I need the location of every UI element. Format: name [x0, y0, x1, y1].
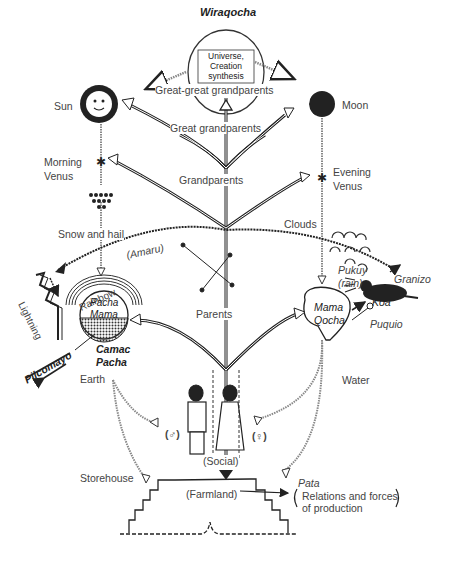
label-moon: Moon [342, 99, 368, 111]
arrow-to-morning-venus [108, 154, 118, 165]
evening-venus-star-icon: ✱ [317, 171, 327, 185]
label-morning-venus-1: Morning [44, 156, 82, 168]
label-koa: Koa [372, 296, 391, 308]
label-storehouse: Storehouse [80, 472, 134, 484]
couple-figures-icon [188, 385, 244, 454]
label-granizo: Granizo [394, 273, 431, 285]
label-female-symbol: (♀) [252, 430, 267, 442]
label-relations-2: of production [302, 502, 363, 514]
arrow-to-evening-venus [300, 172, 310, 182]
arrow-head-right [318, 276, 326, 284]
label-relations-1: Relations and forces [302, 490, 398, 502]
label-parents: Parents [196, 308, 232, 320]
arrow-to-farmland [219, 470, 233, 480]
up-arrow-icon [220, 100, 232, 110]
label-pukuy-1: Pukuy [338, 264, 367, 276]
label-camac-pacha-1: Camac [96, 343, 130, 355]
arrow-wiraqocha-to-moon [255, 62, 292, 78]
label-snow-hail: Snow and hail [58, 228, 124, 240]
label-sun: Sun [54, 100, 73, 112]
label-pukuy-2: (rain) [338, 277, 363, 289]
label-pata: Pata [298, 477, 320, 489]
label-great-great-grandparents: Great-great grandparents [155, 84, 273, 96]
label-male-symbol: (♂) [165, 428, 180, 440]
universe-box-line-3: synthesis [201, 72, 251, 82]
arrow-to-relations [240, 491, 288, 493]
wiraqocha-title: Wiraqocha [200, 6, 256, 19]
label-camac-pacha-2: Pacha [96, 356, 127, 368]
label-evening-venus-2: Venus [333, 180, 362, 192]
arrow-to-sun [122, 98, 134, 110]
amaru-arrow-head [55, 262, 66, 274]
moon-icon [306, 91, 335, 117]
label-morning-venus-2: Venus [44, 170, 73, 182]
label-grandparents: Grandparents [179, 174, 243, 186]
label-evening-venus-1: Evening [333, 166, 371, 178]
label-social: (Social) [203, 455, 239, 467]
label-pacha-mama-2: Mama [90, 309, 118, 321]
label-farmland: (Farmland) [186, 488, 237, 500]
sun-icon [80, 85, 118, 123]
label-mama-qocha-2: Qocha [314, 314, 345, 326]
label-earth: Earth [80, 373, 105, 385]
label-pacha-mama-1: Pacha [90, 297, 118, 309]
label-water: Water [342, 374, 370, 386]
arrow-to-pacha-mama [130, 314, 141, 325]
branches-great-grandparents [130, 105, 285, 168]
label-mama-qocha-1: Mama [314, 301, 343, 313]
snow-hail-icon [89, 193, 113, 209]
label-great-grandparents: Great grandparents [170, 122, 261, 134]
arrow-to-koa [352, 302, 365, 310]
morning-venus-star-icon: ✱ [96, 155, 106, 169]
label-puquio: Puquio [370, 318, 403, 330]
label-clouds: Clouds [284, 218, 317, 230]
